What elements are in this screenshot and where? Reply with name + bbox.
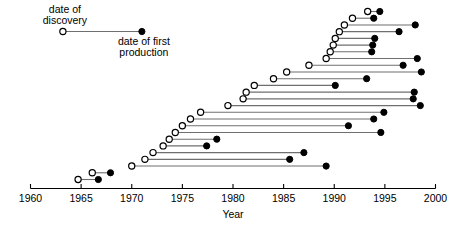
discovery-marker — [89, 170, 95, 176]
x-axis-tick-label: 1975 — [171, 192, 195, 204]
dumbbell-row — [349, 15, 376, 21]
dumbbell-row — [306, 62, 406, 68]
discovery-production-timeline-chart: date ofdiscoverydate of firstproduction1… — [0, 0, 457, 237]
dumbbell-row — [341, 22, 418, 28]
dumbbell-row — [89, 170, 113, 176]
production-marker — [418, 69, 424, 75]
production-marker — [411, 89, 417, 95]
dumbbell-row — [160, 143, 210, 149]
production-marker — [204, 143, 210, 149]
discovery-marker — [323, 55, 329, 61]
production-marker — [381, 109, 387, 115]
discovery-marker — [365, 8, 371, 14]
production-marker — [412, 22, 418, 28]
discovery-marker — [243, 89, 249, 95]
dumbbell-row — [336, 29, 402, 35]
dumbbell-row — [365, 8, 383, 14]
discovery-marker — [198, 109, 204, 115]
x-axis-tick-label: 1990 — [323, 192, 347, 204]
dumbbell-row — [129, 163, 330, 169]
production-marker — [417, 102, 423, 108]
production-marker — [377, 8, 383, 14]
discovery-marker — [306, 62, 312, 68]
x-axis-tick-label: 1980 — [221, 192, 245, 204]
dumbbell-row — [243, 89, 417, 95]
dumbbell-row — [240, 96, 416, 102]
production-marker — [371, 116, 377, 122]
discovery-marker — [75, 176, 81, 182]
discovery-marker — [251, 82, 257, 88]
dumbbell-row — [332, 35, 378, 41]
chart-canvas: date ofdiscoverydate of firstproduction1… — [0, 0, 457, 237]
x-axis-tick-label: 1965 — [69, 192, 93, 204]
discovery-marker — [129, 163, 135, 169]
x-axis-tick-label: 1960 — [19, 192, 43, 204]
legend-group: date ofdiscoverydate of firstproduction — [43, 3, 170, 58]
dumbbell-row — [166, 136, 220, 142]
production-marker — [214, 136, 220, 142]
legend-production-label-line2: production — [119, 46, 168, 58]
dumbbell-row — [284, 69, 425, 75]
dumbbell-row — [251, 82, 338, 88]
production-marker — [396, 29, 402, 35]
dumbbell-row — [172, 129, 384, 135]
discovery-marker — [284, 69, 290, 75]
discovery-marker — [336, 29, 342, 35]
discovery-marker — [270, 76, 276, 82]
discovery-marker — [240, 96, 246, 102]
production-marker — [95, 176, 101, 182]
dumbbell-row — [187, 116, 376, 122]
discovery-marker — [349, 15, 355, 21]
production-marker — [301, 150, 307, 156]
dumbbell-row — [142, 156, 293, 162]
x-axis-tick-label: 2000 — [424, 192, 448, 204]
production-marker — [372, 35, 378, 41]
production-marker — [410, 96, 416, 102]
discovery-marker — [332, 35, 338, 41]
legend-discovery-marker — [60, 28, 66, 34]
x-axis-tick-label: 1985 — [272, 192, 296, 204]
discovery-marker — [225, 102, 231, 108]
discovery-marker — [341, 22, 347, 28]
dumbbell-row — [323, 55, 420, 61]
dumbbell-row — [270, 76, 369, 82]
legend-discovery-label-line2: discovery — [43, 14, 88, 26]
discovery-marker — [330, 42, 336, 48]
production-marker — [370, 42, 376, 48]
production-marker — [414, 55, 420, 61]
production-marker — [332, 82, 338, 88]
dumbbell-row — [198, 109, 387, 115]
production-marker — [345, 123, 351, 129]
dumbbell-row — [327, 49, 375, 55]
production-marker — [400, 62, 406, 68]
dumbbell-row — [225, 102, 424, 108]
production-marker — [371, 15, 377, 21]
legend-production-marker — [139, 28, 145, 34]
discovery-marker — [150, 150, 156, 156]
discovery-marker — [142, 156, 148, 162]
discovery-marker — [187, 116, 193, 122]
production-marker — [107, 170, 113, 176]
x-axis-title: Year — [222, 208, 244, 220]
production-marker — [378, 129, 384, 135]
discovery-marker — [179, 123, 185, 129]
x-axis-tick-label: 1970 — [120, 192, 144, 204]
discovery-marker — [166, 136, 172, 142]
x-axis: 196019651970197519801985199019952000Year — [19, 184, 448, 220]
dumbbell-row — [75, 176, 101, 182]
discovery-marker — [327, 49, 333, 55]
production-marker — [364, 76, 370, 82]
x-axis-tick-label: 1995 — [373, 192, 397, 204]
production-marker — [323, 163, 329, 169]
dumbbell-row — [330, 42, 376, 48]
discovery-marker — [160, 143, 166, 149]
dumbbell-row — [179, 123, 351, 129]
production-marker — [287, 156, 293, 162]
discovery-marker — [172, 129, 178, 135]
production-marker — [369, 49, 375, 55]
dumbbell-row — [150, 150, 307, 156]
